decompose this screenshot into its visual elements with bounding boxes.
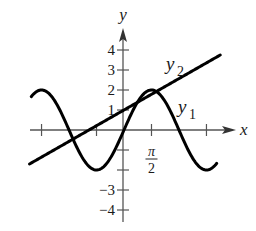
x-tick-label-numerator: π [148, 144, 156, 159]
series-label-subscript: 2 [177, 64, 184, 79]
y-tick-label: 3 [108, 62, 116, 78]
x-axis-label: x [239, 120, 248, 139]
y-tick-label: 4 [108, 42, 116, 58]
series-label-y1: y [176, 96, 187, 117]
y-tick-label: 1 [108, 102, 116, 118]
x-tick-label-denominator: 2 [148, 161, 155, 176]
chart: π24321−3−4xyy1y2 [0, 0, 256, 231]
axes [30, 28, 236, 222]
y-tick-label: −4 [99, 202, 115, 218]
y-axis-label: y [117, 5, 127, 24]
y-tick-label: −3 [99, 182, 115, 198]
series-label-subscript: 1 [189, 107, 196, 122]
series-label-y2: y [164, 53, 175, 74]
y-tick-label: 2 [108, 82, 116, 98]
